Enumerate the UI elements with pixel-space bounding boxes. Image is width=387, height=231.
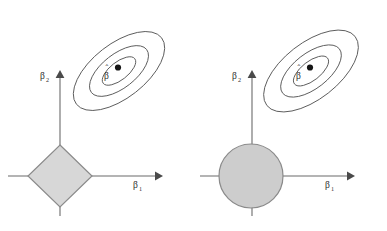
contour-level-3: [250, 14, 373, 127]
y-axis-label: β: [232, 71, 237, 81]
ols-estimate-dot: [307, 64, 313, 70]
x-axis-label: β: [133, 180, 138, 190]
lasso-axes: [8, 70, 163, 216]
regularization-figure: ˆ β β 1 β 2 ˆ β β 1 β 2: [0, 0, 387, 231]
beta-hat-label: β: [296, 71, 301, 81]
l2-constraint-region: [219, 144, 283, 208]
x-axis-arrowhead: [347, 172, 355, 181]
y-axis-label-subscript: 2: [238, 76, 241, 83]
x-axis-label-subscript: 1: [331, 185, 334, 192]
x-axis-label-subscript: 1: [139, 185, 142, 192]
ridge-contours: [250, 14, 373, 127]
y-axis-arrowhead: [56, 70, 65, 78]
lasso-panel: ˆ β β 1 β 2: [0, 0, 194, 231]
lasso-contours: [60, 16, 178, 125]
beta-hat-label: β: [104, 71, 109, 81]
x-axis-arrowhead: [155, 172, 163, 181]
y-axis-label-subscript: 2: [46, 76, 49, 83]
y-axis-label: β: [40, 71, 45, 81]
ols-estimate-dot: [115, 64, 121, 70]
contour-level-3: [60, 16, 178, 125]
l1-constraint-region: [28, 145, 92, 207]
contour-level-2: [272, 35, 350, 107]
y-axis-arrowhead: [248, 70, 257, 78]
ridge-panel: ˆ β β 1 β 2: [194, 0, 387, 231]
contour-level-2: [81, 36, 157, 106]
x-axis-label: β: [325, 180, 330, 190]
